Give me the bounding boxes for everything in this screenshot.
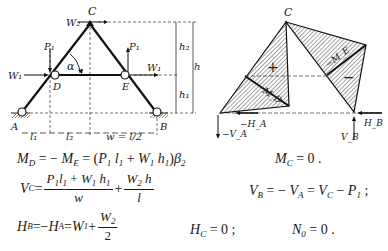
label-VB: V_B bbox=[341, 132, 359, 143]
label-w: w = l/2 bbox=[106, 131, 142, 142]
label-VA: −V_A bbox=[222, 129, 248, 140]
frame-diagram: C W₂ P₁ P₁ W₁ W₁ α D E A B h₂ h₁ h l₁ l₂… bbox=[0, 0, 200, 145]
label-W2: W₂ bbox=[66, 17, 80, 28]
label-l1: l₁ bbox=[30, 131, 37, 142]
label-B: B bbox=[159, 121, 167, 132]
minus-sign: − bbox=[343, 69, 355, 85]
fraction-vc-2: W2 h l bbox=[124, 172, 153, 205]
label-D: D bbox=[52, 81, 61, 92]
label-A: A bbox=[10, 121, 18, 132]
fraction-vc-1: P1l1 + W1 h1 w bbox=[44, 172, 112, 205]
label-h2: h₂ bbox=[179, 41, 189, 52]
equation-n0: N0 = 0 . bbox=[292, 223, 335, 239]
label-l2: l₂ bbox=[66, 131, 73, 142]
label-h1: h₁ bbox=[179, 89, 189, 100]
label-P1-left: P₁ bbox=[43, 41, 55, 52]
equation-md: MD = − ME = (P1 l1 + W1 h1)β2 bbox=[17, 152, 185, 168]
fraction-hb: W2 2 bbox=[98, 210, 117, 243]
apex-hinge bbox=[86, 20, 94, 26]
label-C: C bbox=[88, 5, 97, 18]
equation-vc: VC = P1l1 + W1 h1 w + W2 h l bbox=[20, 172, 156, 205]
hinge-B bbox=[153, 108, 161, 116]
equation-hc: HC = 0 ; bbox=[190, 223, 235, 239]
angle-arrow-icon bbox=[78, 69, 83, 74]
moment-diagram: C + − M_D −M_E −H_A −V_A H_B V_B bbox=[200, 0, 388, 150]
equation-hb: HB = − HA = W1 + W2 2 bbox=[17, 210, 119, 243]
label-W1-left: W₁ bbox=[8, 70, 22, 81]
equation-mc: MC = 0 . bbox=[275, 152, 322, 168]
frame-members bbox=[22, 24, 156, 112]
hinge-A bbox=[18, 108, 26, 116]
label-P1-right: P₁ bbox=[128, 41, 140, 52]
moment-area-right bbox=[286, 22, 366, 112]
label-HB: H_B bbox=[363, 118, 383, 129]
label-alpha: α bbox=[67, 60, 75, 73]
hinge-D bbox=[51, 71, 59, 79]
label-C-right: C bbox=[284, 6, 293, 19]
equation-vb: VB = − VA = VC − P1 ; bbox=[249, 184, 368, 200]
label-W1-right: W₁ bbox=[147, 62, 161, 73]
hinge-E bbox=[121, 71, 129, 79]
plus-sign: + bbox=[267, 59, 279, 75]
label-E: E bbox=[121, 81, 130, 92]
